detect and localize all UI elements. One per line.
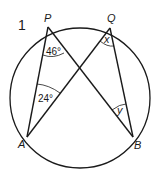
question-number: 1 — [18, 17, 26, 33]
angle-label-46: 46° — [46, 46, 61, 57]
circle-theorem-diagram: 1 P Q A B 46° 24° x y — [0, 0, 158, 169]
point-label-a: A — [17, 138, 25, 150]
chord-pa — [27, 27, 48, 137]
point-label-q: Q — [107, 12, 116, 24]
angle-label-24: 24° — [38, 93, 53, 104]
chord-qa — [27, 28, 110, 137]
circle — [10, 28, 150, 168]
chord-pb — [48, 27, 133, 137]
angle-arc-a — [37, 84, 60, 93]
point-label-b: B — [134, 139, 141, 151]
angle-label-x: x — [103, 33, 110, 45]
chord-qb — [110, 28, 133, 137]
angle-label-y: y — [116, 104, 124, 116]
point-label-p: P — [44, 12, 52, 24]
